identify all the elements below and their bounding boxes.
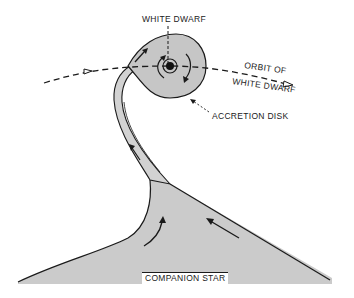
accretion-disk-leader-arrow-icon — [190, 99, 196, 104]
diagram-canvas: WHITE DWARF ORBIT OF WHITE DWARF ACCRETI… — [0, 0, 354, 298]
accretion-disk-leader — [193, 101, 209, 112]
white-dwarf-dot — [166, 62, 174, 70]
diagram-svg — [0, 0, 354, 298]
white-dwarf-label: WHITE DWARF — [142, 15, 206, 24]
orbit-arrow-left-icon — [84, 69, 92, 74]
companion-star-label: COMPANION STAR — [142, 272, 228, 284]
companion-star-shape — [18, 178, 332, 284]
accretion-disk-label: ACCRETION DISK — [212, 112, 288, 121]
